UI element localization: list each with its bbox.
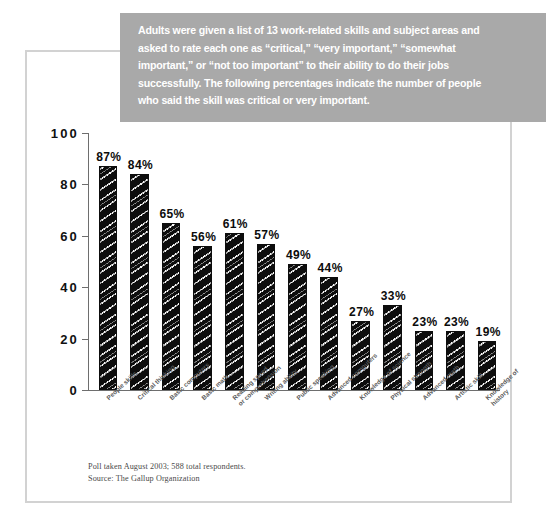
bar (99, 166, 118, 390)
chart-page: Adults were given a list of 13 work-rela… (0, 0, 546, 529)
bar-value-label: 23% (412, 315, 437, 329)
y-tick-80 (82, 184, 88, 185)
y-tick-label-0: 0 (70, 383, 79, 398)
bar-value-label: 44% (318, 261, 343, 275)
bar-value-label: 87% (96, 150, 121, 164)
bar-value-label: 61% (223, 217, 248, 231)
bar (446, 331, 465, 390)
bar-value-label: 84% (128, 158, 153, 172)
y-tick-label-40: 40 (60, 280, 79, 295)
bar-value-label: 27% (349, 305, 374, 319)
bar-column: 87% (99, 166, 118, 390)
callout-line-4: who said the skill was critical or very … (138, 92, 504, 110)
y-tick-100 (82, 133, 88, 134)
callout-box: Adults were given a list of 13 work-rela… (120, 13, 546, 122)
bar (225, 233, 244, 390)
bar-column: 23% (446, 331, 465, 390)
bar-value-label: 23% (444, 315, 469, 329)
y-tick-60 (82, 236, 88, 237)
y-tick-label-20: 20 (60, 331, 79, 346)
bar-column: 19% (478, 341, 497, 390)
bar (415, 331, 434, 390)
callout-line-0: Adults were given a list of 13 work-rela… (138, 22, 504, 40)
bar-column: 23% (415, 331, 434, 390)
plot-area: 020406080100 87%84%65%56%61%57%49%44%27%… (88, 133, 500, 391)
callout-line-2: important,” or “not too important” to th… (138, 57, 504, 75)
bar-value-label: 49% (286, 248, 311, 262)
footnote: Poll taken August 2003; 588 total respon… (88, 461, 246, 484)
y-tick-label-100: 100 (51, 126, 79, 141)
y-tick-40 (82, 287, 88, 288)
bar-column: 84% (130, 174, 149, 390)
bar-value-label: 19% (476, 325, 501, 339)
footnote-source: Source: The Gallup Organization (88, 473, 246, 485)
footnote-poll: Poll taken August 2003; 588 total respon… (88, 461, 246, 473)
bar (130, 174, 149, 390)
y-tick-0 (82, 390, 88, 391)
bar-value-label: 56% (191, 230, 216, 244)
callout-line-3: successfully. The following percentages … (138, 75, 504, 93)
bar-value-label: 65% (159, 207, 184, 221)
bar (478, 341, 497, 390)
bar-column: 61% (225, 233, 244, 390)
y-tick-20 (82, 339, 88, 340)
y-tick-label-80: 80 (60, 177, 79, 192)
bar-value-label: 33% (381, 289, 406, 303)
bar-value-label: 57% (254, 228, 279, 242)
callout-line-1: asked to rate each one as “critical,” “v… (138, 40, 504, 58)
y-tick-label-60: 60 (60, 228, 79, 243)
bar-series: 87%84%65%56%61%57%49%44%27%33%23%23%19% (89, 133, 500, 390)
